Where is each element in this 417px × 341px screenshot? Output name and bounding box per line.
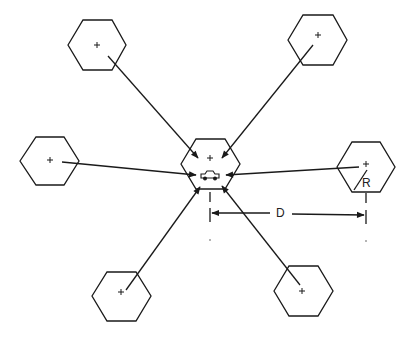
plus-marker-center bbox=[207, 155, 213, 161]
distance-label: D bbox=[275, 207, 286, 219]
radius-label: R bbox=[361, 177, 372, 189]
plus-marker-bottom-right bbox=[299, 288, 305, 294]
arrow-from-top-right bbox=[222, 45, 313, 158]
hex-cell-bottom-left bbox=[92, 272, 151, 321]
distance-arrow-right bbox=[292, 214, 364, 215]
arrow-from-bottom-left bbox=[126, 187, 200, 290]
arrow-from-bottom-right bbox=[222, 186, 300, 285]
arrow-from-left bbox=[62, 162, 196, 175]
vehicle-icon bbox=[201, 171, 219, 180]
plus-marker-bottom-left bbox=[118, 289, 124, 295]
plus-marker-top-right bbox=[315, 32, 321, 38]
arrow-from-top-left bbox=[108, 56, 198, 158]
plus-marker-right bbox=[363, 161, 369, 167]
cell-diagram bbox=[0, 0, 417, 341]
plus-marker-top-left bbox=[94, 42, 100, 48]
hex-cell-top-right bbox=[288, 15, 347, 65]
plus-marker-left bbox=[47, 157, 53, 163]
